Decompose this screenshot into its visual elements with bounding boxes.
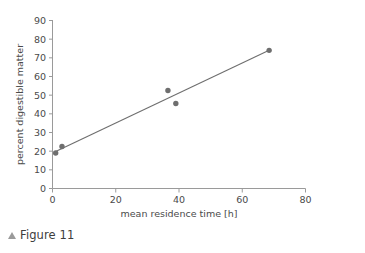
scatter-plot: 0102030405060708090 020406080 mean resid… xyxy=(0,0,365,253)
y-tick-label: 30 xyxy=(34,127,46,138)
data-points xyxy=(53,48,272,156)
x-tick-label: 0 xyxy=(49,194,55,205)
y-tick-label: 40 xyxy=(34,108,46,119)
x-axis: 020406080 xyxy=(49,189,311,205)
x-tick-label: 80 xyxy=(299,194,311,205)
triangle-up-icon xyxy=(8,232,16,239)
data-point xyxy=(173,101,178,106)
y-tick-label: 60 xyxy=(34,71,46,82)
trend-line xyxy=(56,50,269,151)
y-axis-title: percent digestible matter xyxy=(14,44,25,165)
data-point xyxy=(165,88,170,93)
y-axis: 0102030405060708090 xyxy=(34,15,53,194)
y-tick-label: 20 xyxy=(34,146,46,157)
x-tick-label: 60 xyxy=(236,194,248,205)
x-tick-label: 20 xyxy=(110,194,122,205)
data-point xyxy=(266,48,271,53)
y-tick-label: 80 xyxy=(34,34,46,45)
x-axis-title: mean residence time [h] xyxy=(121,208,238,219)
data-point xyxy=(59,144,64,149)
data-point xyxy=(53,150,58,155)
axis-titles: mean residence time [h]percent digestibl… xyxy=(14,44,238,219)
x-tick-label: 40 xyxy=(173,194,185,205)
y-tick-label: 70 xyxy=(34,52,46,63)
regression-line xyxy=(56,50,269,151)
y-tick-label: 50 xyxy=(34,90,46,101)
y-tick-label: 10 xyxy=(34,164,46,175)
figure-container: 0102030405060708090 020406080 mean resid… xyxy=(0,0,365,253)
y-tick-label: 0 xyxy=(40,183,46,194)
y-tick-label: 90 xyxy=(34,15,46,26)
figure-caption-text: Figure 11 xyxy=(20,228,74,242)
figure-caption: Figure 11 xyxy=(8,228,74,242)
